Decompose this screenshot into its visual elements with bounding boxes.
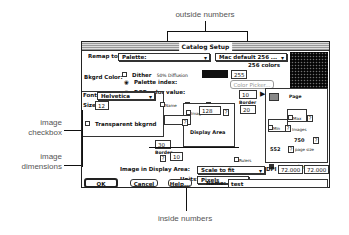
image-width-field[interactable]: 128 [199, 106, 221, 115]
callout-line [64, 130, 82, 131]
name-field[interactable]: test [228, 179, 328, 188]
catalog-setup-dialog: Catalog Setup Remap to: Palette: Mac def… [81, 41, 330, 188]
inside-numbers-callout: inside numbers [140, 214, 230, 223]
colors-count: 256 colors [248, 62, 280, 69]
help-q-icon[interactable]: ? [182, 119, 188, 126]
page-size-label: page size [295, 146, 314, 153]
remap-select[interactable]: Palette: [118, 53, 210, 61]
outside-top-field[interactable]: 10 [239, 90, 257, 99]
bottom-border-field[interactable]: 10 [170, 152, 183, 161]
min-row: Min [268, 115, 280, 134]
help-q-icon[interactable]: ? [160, 155, 166, 162]
bkgrd-label: Bkgrd Color: [84, 74, 123, 81]
max-row: Max [288, 105, 301, 124]
callout-line [64, 165, 82, 166]
name-chk-label: Name [165, 103, 177, 108]
display-area-label: Display Area [190, 129, 225, 136]
ok-button[interactable]: OK [84, 178, 118, 188]
min-label: Min [273, 126, 280, 131]
callout-text: image [0, 118, 62, 128]
dpi-y-field[interactable]: 72.000 [304, 165, 329, 174]
palette-index-field[interactable]: 255 [231, 70, 247, 79]
callout-text: image [0, 152, 62, 162]
transparent-row: Transparent bkgrnd [85, 111, 157, 130]
image-in-display-select[interactable]: Scale to fit [197, 166, 265, 174]
help-q-icon[interactable]: ? [223, 109, 229, 116]
remap-label: Remap to: [88, 53, 120, 60]
border-right-field[interactable]: 20 [240, 105, 256, 114]
page-icon [269, 93, 279, 101]
title-bar[interactable]: Catalog Setup [82, 42, 329, 51]
callout-line [149, 147, 239, 148]
font-select[interactable]: Helvetica [97, 92, 155, 100]
size-field[interactable]: 12 [95, 101, 109, 110]
image-checkbox-callout: image checkbox [0, 118, 62, 138]
outside-numbers-callout: outside numbers [160, 10, 250, 19]
max-label: Max [293, 116, 301, 121]
page-height: 750 [294, 137, 304, 144]
transparent-checkbox[interactable] [85, 121, 90, 126]
help-q-icon[interactable]: ? [288, 146, 294, 153]
dpi-x-field[interactable]: 72.000 [278, 165, 303, 174]
image-dimensions-callout: image dimensions [0, 152, 62, 172]
palette-select[interactable]: Mac default 256 ... [215, 53, 287, 61]
image-in-display-label: Image in Display Area: [120, 166, 190, 173]
dialog-title: Catalog Setup [179, 42, 233, 51]
callout-text: checkbox [0, 128, 62, 138]
name-label: Name: [206, 180, 226, 187]
images-label: Images [292, 126, 307, 133]
callout-line [205, 21, 206, 31]
help-button[interactable]: Help... [168, 179, 192, 187]
callout-line [82, 110, 83, 167]
help-q-icon[interactable]: ? [313, 137, 319, 144]
rulers-label: Rulers [239, 158, 251, 163]
help-q-icon[interactable]: ? [307, 115, 313, 122]
page-label: Page [289, 93, 302, 100]
help-q-icon[interactable]: ? [285, 125, 291, 132]
rulers-row: Rulers [234, 147, 251, 166]
callout-text: dimensions [0, 162, 62, 172]
cancel-button[interactable]: Cancel [130, 179, 158, 187]
page-width: 552 [270, 146, 280, 153]
callout-line [167, 31, 248, 32]
dpi-label: DPI [266, 166, 277, 173]
bkgrd-color-swatch [202, 70, 228, 78]
transparent-label: Transparent bkgrnd [95, 121, 156, 127]
